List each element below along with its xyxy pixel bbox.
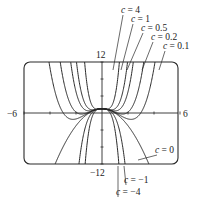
curve-label: c = 0.1 <box>163 41 189 51</box>
leader-line <box>138 155 157 160</box>
y-max-label: 12 <box>96 50 106 60</box>
curve-family-diagram: −6 6 12 −12 c = 4c = 1c = 0.5c = 0.2c = … <box>0 0 200 199</box>
leader-line <box>142 42 153 70</box>
x-min-label: −6 <box>7 109 17 119</box>
y-min-label: −12 <box>90 168 105 178</box>
x-max-label: 6 <box>183 109 188 119</box>
leader-line <box>159 51 165 70</box>
curve-label: c = 0 <box>155 145 174 155</box>
curve-label: c = −4 <box>116 187 141 197</box>
curve-label: c = −1 <box>124 175 149 185</box>
